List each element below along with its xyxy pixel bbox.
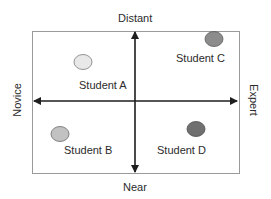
axis-label-expert: Expert: [248, 80, 260, 120]
axis-label-distant: Distant: [118, 12, 152, 24]
student-a-marker: [74, 55, 92, 70]
student-d-label: Student D: [157, 144, 206, 156]
axis-label-novice: Novice: [11, 80, 23, 120]
axis-label-near: Near: [123, 181, 147, 193]
student-c-label: Student C: [176, 52, 225, 64]
student-c-marker: [205, 32, 223, 47]
quadrant-diagram: [0, 0, 271, 199]
student-b-marker: [51, 127, 69, 142]
student-b-label: Student B: [64, 144, 112, 156]
student-d-marker: [187, 122, 205, 137]
student-a-label: Student A: [79, 79, 127, 91]
